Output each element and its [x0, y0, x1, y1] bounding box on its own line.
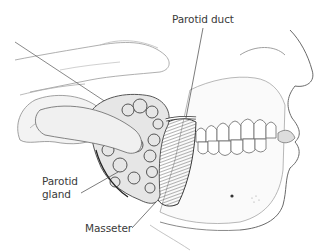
- skull-drawing: [0, 0, 329, 251]
- anatomy-illustration: Parotid duct Parotid gland Masseter: [0, 0, 329, 251]
- label-parotid-duct: Parotid duct: [172, 13, 234, 26]
- neck-outline: [150, 225, 190, 250]
- label-masseter: Masseter: [85, 222, 132, 235]
- label-parotid-gland: Parotid gland: [42, 175, 78, 201]
- zygomatic-arch: [15, 41, 169, 95]
- leader-line-masseter: [132, 202, 156, 228]
- label-parotid-gland-line2: gland: [42, 188, 78, 201]
- lips: [278, 130, 295, 143]
- mental-foramen: [230, 194, 233, 197]
- label-parotid-gland-line1: Parotid: [42, 175, 78, 188]
